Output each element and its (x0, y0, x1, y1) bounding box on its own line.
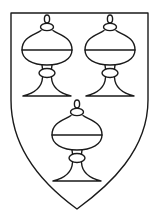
heraldic-figure: Shield with three covered cups (0, 0, 153, 219)
shield-drawing (0, 0, 153, 219)
cup-icon-dexter-chief (22, 15, 72, 96)
cup-icon-sinister-chief (85, 15, 135, 96)
shield-outline (11, 13, 148, 209)
cup-icon-base (52, 100, 102, 181)
